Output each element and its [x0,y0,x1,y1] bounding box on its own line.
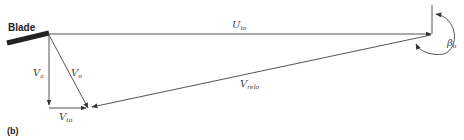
blade-shape [7,33,49,43]
blade-label: Blade [8,22,36,33]
v-o-label: Vo [71,67,82,79]
panel-label: (b) [7,126,19,136]
v-to-label: Vto [59,111,73,123]
v-a-label: Va [33,67,44,79]
v-relo-label: Vrelo [240,78,260,90]
v-o-vector [49,35,88,108]
v-relo-vector [92,35,431,107]
velocity-triangle-diagram: Blade Uto Vrelo Va Vo Vto βo (b) [0,0,464,140]
u-to-label: Uto [232,19,247,31]
beta-angle-label: βo [446,37,457,49]
